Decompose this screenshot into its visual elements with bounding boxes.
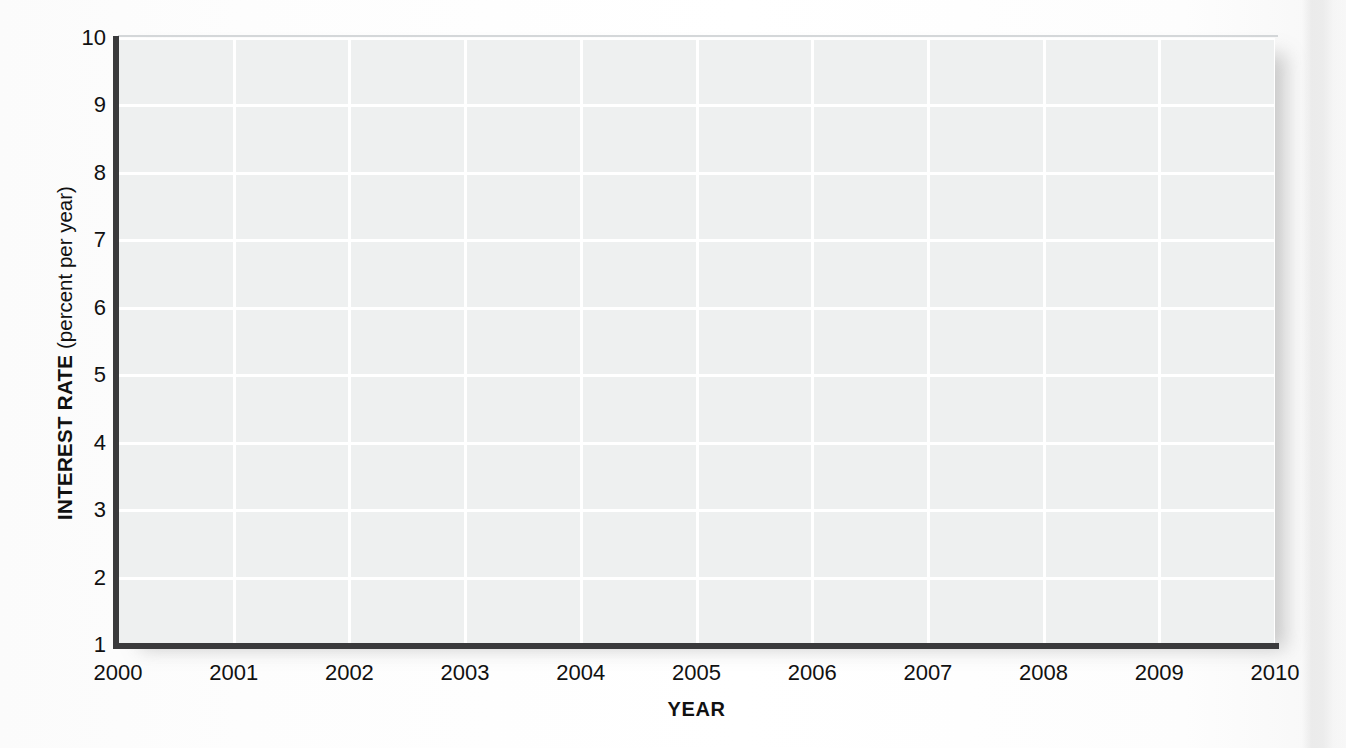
x-axis-tick-2000: 2000 [58,662,178,684]
y-axis-title-units [53,349,76,355]
plot-area [118,38,1275,645]
x-axis-tick-2001: 2001 [174,662,294,684]
x-axis-tick-2008: 2008 [984,662,1104,684]
y-axis-tick-1: 1 [46,634,106,656]
data-series-layer [118,38,1275,645]
x-axis-tick-2010: 2010 [1215,662,1335,684]
plot-top-rule [118,35,1278,37]
y-axis-tick-10: 10 [46,27,106,49]
x-axis-tick-2009: 2009 [1099,662,1219,684]
x-axis-tick-2004: 2004 [521,662,641,684]
page-edge-shading [1302,0,1346,748]
chart-page: 10987654321 2000200120022003200420052006… [0,0,1346,748]
y-axis-title-units-text: (percent per year) [53,186,76,349]
y-axis-title: INTEREST RATE (percent per year) [53,93,77,613]
y-axis-title-bold: INTEREST RATE [53,355,76,520]
x-axis-tick-2005: 2005 [637,662,757,684]
x-axis-line [113,643,1279,649]
x-axis-tick-2006: 2006 [752,662,872,684]
x-axis-tick-2002: 2002 [289,662,409,684]
y-axis-line [113,36,119,649]
x-axis-title: YEAR [118,698,1275,721]
x-axis-tick-2003: 2003 [405,662,525,684]
x-axis-tick-2007: 2007 [868,662,988,684]
